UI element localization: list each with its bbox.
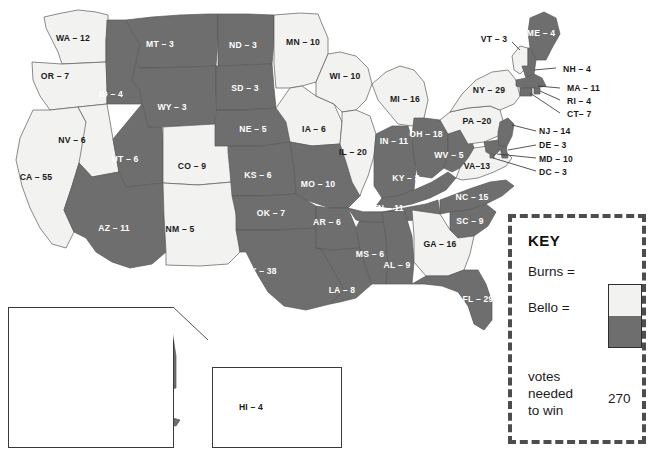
state-shape-MI: [372, 66, 428, 126]
alaska-inset-box-right-edge: [173, 340, 174, 448]
inset-connector-AK: [173, 307, 208, 340]
inset-connectors: [173, 307, 208, 340]
leader-line-CT: [530, 93, 560, 113]
state-shape-OR: [32, 62, 107, 110]
state-shape-ME: [528, 12, 560, 60]
legend-votes-needed-value: 270: [608, 392, 631, 406]
state-shape-OH: [412, 118, 448, 178]
alaska-inset-box: [8, 307, 173, 448]
hawaii-inset-box: [212, 367, 342, 448]
legend-note-line-3: to win: [528, 402, 594, 419]
legend-row-burns: Burns =: [528, 265, 642, 279]
state-shape-SD: [216, 64, 276, 110]
state-shape-NE: [215, 108, 290, 146]
leader-line-RI: [540, 91, 560, 100]
legend-note-line-1: votes: [528, 368, 594, 385]
state-shape-NM: [163, 182, 240, 266]
leader-line-NH: [534, 68, 556, 70]
leader-line-VT: [512, 42, 520, 50]
leader-line-DE: [508, 145, 536, 150]
state-shape-KS: [228, 142, 296, 196]
electoral-map: WA – 12OR – 7CA – 55NV – 6ID – 4MT – 3WY…: [0, 0, 654, 455]
state-shape-ND: [218, 14, 274, 66]
state-shape-NY: [450, 70, 520, 112]
state-shape-RI: [534, 88, 540, 94]
legend-swatch-bello: [609, 316, 641, 347]
legend-note-line-2: needed: [528, 385, 594, 402]
legend-title: KEY: [528, 232, 642, 249]
state-shape-OK: [232, 194, 316, 230]
state-shape-NJ: [498, 118, 514, 148]
state-shape-DC: [490, 154, 494, 158]
legend-votes-needed-note: votes needed to win: [528, 368, 594, 419]
legend-swatch-burns: [609, 285, 641, 316]
leader-line-NJ: [512, 125, 536, 131]
state-shape-MA: [516, 74, 546, 88]
legend-swatches: [608, 284, 642, 348]
state-shape-WA: [44, 10, 108, 64]
state-shape-IN: [374, 126, 416, 198]
state-shape-CT: [520, 88, 532, 96]
state-shape-MT: [126, 14, 218, 68]
map-legend: KEY Burns = Bello = votes needed to win …: [508, 214, 646, 444]
state-shape-FL: [412, 270, 492, 330]
state-shape-NV: [78, 104, 119, 177]
